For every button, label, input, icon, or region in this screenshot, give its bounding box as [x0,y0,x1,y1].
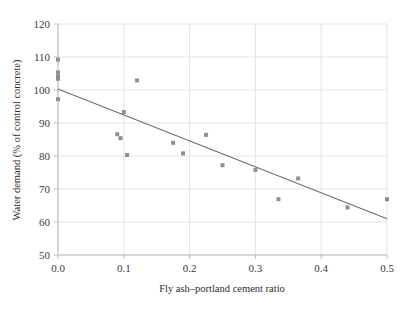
data-point-marker [56,77,60,81]
data-point-marker [56,97,60,101]
y-tick-label: 120 [34,18,51,30]
data-point-marker [221,163,225,167]
data-point-marker [115,132,119,136]
data-point-marker [171,141,175,145]
y-tick-label: 90 [39,117,51,129]
x-tick-label: 0.3 [249,262,263,274]
data-point-marker [181,151,185,155]
y-tick-label: 70 [39,183,51,195]
data-point-marker [385,197,389,201]
data-point-marker [346,205,350,209]
x-tick-label: 0.4 [314,262,328,274]
data-point-marker [56,58,60,62]
data-point-marker [56,71,60,75]
y-tick-label: 50 [39,249,51,261]
x-axis-title: Fly ash–portland cement ratio [159,283,285,294]
data-point-marker [135,78,139,82]
data-point-marker [125,153,129,157]
data-point-marker [204,133,208,137]
y-axis-title: Water demand (% of control concrete) [11,59,23,220]
data-point-marker [276,197,280,201]
y-tick-label: 80 [39,150,51,162]
chart-figure: 5060708090100110120 0.00.10.20.30.40.5 F… [0,0,410,311]
x-tick-label: 0.0 [51,262,65,274]
data-point-marker [253,168,257,172]
y-tick-label: 60 [39,216,51,228]
x-tick-label: 0.1 [117,262,131,274]
scatter-plot: 5060708090100110120 0.00.10.20.30.40.5 F… [0,0,410,311]
x-tick-label: 0.2 [183,262,197,274]
y-tick-label: 100 [34,84,51,96]
y-tick-label: 110 [34,51,51,63]
data-point-marker [296,176,300,180]
data-point-marker [122,110,126,114]
x-tick-label: 0.5 [380,262,394,274]
data-point-marker [119,136,123,140]
